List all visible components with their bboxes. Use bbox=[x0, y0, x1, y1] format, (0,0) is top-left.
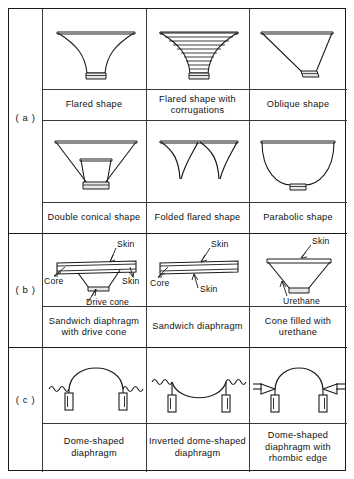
grid-vline-label-col bbox=[42, 9, 43, 472]
drawing-folded-flared-cone bbox=[150, 125, 248, 201]
caption-dome-shaped-diaphragm: Dome-shaped diaphragm bbox=[42, 424, 146, 471]
caption-sandwich-diaphragm: Sandwich diaphragm bbox=[146, 307, 249, 347]
annotation-skin-top: Skin bbox=[117, 239, 135, 249]
grid-vline-col2 bbox=[249, 9, 250, 472]
drawing-sandwich-panel-with-drive-cone: Skin Core Skin Drive cone bbox=[44, 236, 146, 306]
annotation-skin-bottom: Skin bbox=[200, 284, 218, 294]
caption-folded-flared-shape: Folded flared shape bbox=[146, 203, 249, 233]
annotation-skin-top: Skin bbox=[211, 239, 229, 249]
annotation-urethane: Urethane bbox=[283, 296, 320, 306]
drawing-parabolic-bowl bbox=[253, 125, 345, 201]
drawing-oblique-cone bbox=[253, 15, 345, 87]
caption-double-conical-shape: Double conical shape bbox=[42, 203, 146, 233]
annotation-core: Core bbox=[150, 278, 169, 288]
drawing-double-conical-cone bbox=[47, 125, 145, 201]
caption-inverted-dome-shaped-diaphragm: Inverted dome-shaped diaphragm bbox=[146, 424, 249, 471]
section-label-c: ( c ) bbox=[9, 394, 42, 405]
grid-vline-col1 bbox=[146, 9, 147, 472]
drawing-dome bbox=[47, 351, 145, 421]
annotation-skin-right: Skin bbox=[122, 276, 140, 286]
caption-cone-filled-urethane: Cone filled with urethane bbox=[249, 307, 347, 347]
caption-oblique-shape: Oblique shape bbox=[249, 90, 347, 120]
caption-dome-shaped-rhombic-edge: Dome-shaped diaphragm with rhombic edge bbox=[249, 424, 347, 471]
drawing-sandwich-panel: Skin Core Skin bbox=[150, 236, 248, 306]
grid-hline-a-row2-top bbox=[42, 120, 347, 121]
annotation-skin: Skin bbox=[312, 236, 330, 246]
caption-sandwich-diaphragm-drive-cone: Sandwich diaphragm with drive cone bbox=[42, 307, 146, 347]
section-label-b: ( b ) bbox=[9, 284, 42, 295]
annotation-core: Core bbox=[44, 276, 63, 286]
drawing-dome-rhombic-edge bbox=[253, 351, 345, 421]
section-label-a: ( a ) bbox=[9, 112, 42, 123]
drawing-flared-cone-corrugated bbox=[150, 15, 248, 87]
drawing-cone-filled-urethane: Skin Urethane bbox=[253, 236, 345, 306]
drawing-inverted-dome bbox=[150, 351, 248, 421]
caption-parabolic-shape: Parabolic shape bbox=[249, 203, 347, 233]
grid-hline-section-b-c bbox=[9, 347, 347, 348]
grid-hline-section-a-b bbox=[9, 233, 347, 234]
annotation-drive-cone: Drive cone bbox=[86, 297, 129, 307]
diaphragm-shapes-figure: ( a ) ( b ) ( c ) bbox=[8, 8, 346, 471]
drawing-flared-cone bbox=[47, 15, 145, 87]
caption-flared-shape: Flared shape bbox=[42, 90, 146, 120]
caption-flared-shape-corrugations: Flared shape with corrugations bbox=[146, 90, 249, 120]
